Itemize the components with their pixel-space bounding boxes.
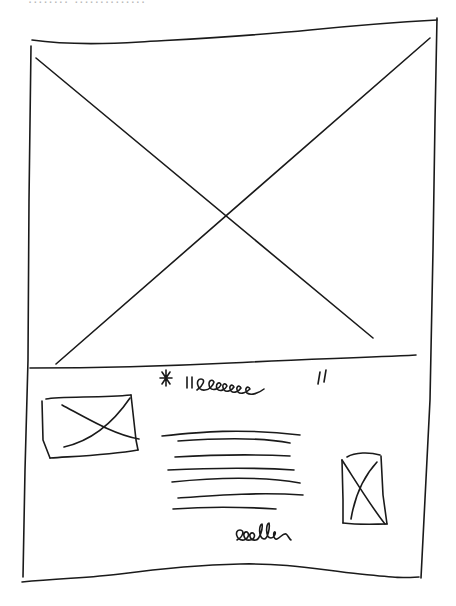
wireframe-sketch: [0, 0, 456, 606]
right-thumbnail-placeholder: [342, 453, 387, 524]
quote-scribble: [160, 370, 326, 394]
left-thumbnail-placeholder: [42, 395, 139, 458]
hero-image-placeholder: [36, 38, 430, 364]
section-divider: [30, 355, 416, 368]
signature-scribble: [237, 523, 291, 540]
hero-x-stroke-1: [36, 58, 373, 338]
page-frame: [22, 18, 437, 582]
body-text-lines: [162, 431, 303, 509]
hero-x-stroke-2: [56, 38, 430, 364]
